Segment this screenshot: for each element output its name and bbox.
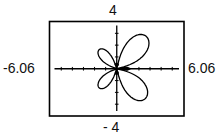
plot-area <box>0 0 218 137</box>
